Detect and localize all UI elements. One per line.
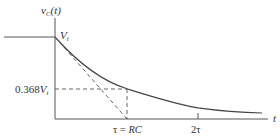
y-axis-label: vC(t)	[41, 4, 61, 18]
x-axis-label: t	[273, 112, 277, 124]
initial-value-label: Vi	[60, 29, 69, 43]
decay-curve	[55, 37, 262, 113]
level-0368-label: 0.368Vi	[15, 83, 48, 97]
tangent-dashed-line	[55, 37, 127, 119]
rc-discharge-diagram: vC(t) Vi 0.368Vi τ = RC 2τ t	[0, 0, 280, 139]
two-tau-tick-label: 2τ	[191, 124, 200, 135]
tau-tick-label: τ = RC	[113, 124, 143, 135]
